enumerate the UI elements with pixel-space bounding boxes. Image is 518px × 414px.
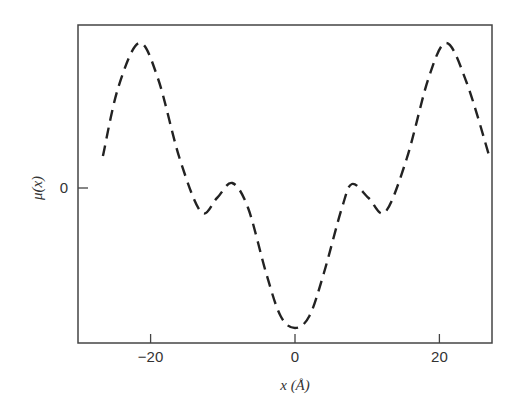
mu-curve bbox=[103, 43, 489, 328]
y-axis-label: μ(x) bbox=[29, 176, 46, 201]
x-tick-label: −20 bbox=[138, 348, 163, 365]
x-tick-label: 0 bbox=[291, 348, 299, 365]
x-tick-label: 20 bbox=[431, 348, 448, 365]
chart: −20020 0 x (Å) μ(x) bbox=[0, 0, 518, 414]
y-tick-label: 0 bbox=[60, 179, 68, 196]
x-axis-label: x (Å) bbox=[279, 377, 310, 394]
x-ticks: −20020 bbox=[138, 334, 448, 365]
y-ticks: 0 bbox=[60, 179, 88, 196]
